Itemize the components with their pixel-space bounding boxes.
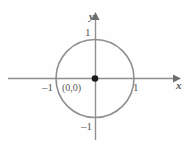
x-tick-label-positive-one: 1 — [133, 82, 139, 93]
origin-coordinate-label: (0,0) — [62, 83, 81, 93]
coordinate-plane-graphic — [0, 0, 196, 149]
x-axis-label: x — [176, 80, 182, 91]
unit-circle-figure: y x 1 –1 –1 1 (0,0) — [0, 0, 196, 149]
y-axis-label: y — [89, 11, 94, 22]
y-tick-label-positive-one: 1 — [85, 27, 91, 38]
origin-point-dot — [92, 75, 99, 82]
x-tick-label-negative-one: –1 — [42, 82, 53, 93]
y-tick-label-negative-one: –1 — [81, 121, 92, 132]
